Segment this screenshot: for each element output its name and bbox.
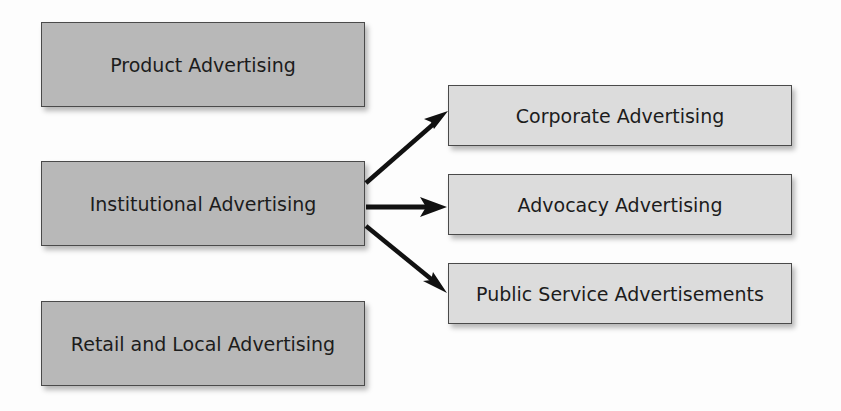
arrow-institutional-to-public-service <box>366 226 447 293</box>
box-label: Product Advertising <box>110 54 296 76</box>
box-label: Corporate Advertising <box>516 105 725 127</box>
arrow-institutional-to-advocacy <box>366 197 447 217</box>
arrowhead-icon <box>423 272 447 293</box>
box-advocacy-advertising: Advocacy Advertising <box>448 174 792 235</box>
box-label: Advocacy Advertising <box>518 194 723 216</box>
box-label: Institutional Advertising <box>90 193 317 215</box>
arrow-institutional-to-corporate <box>366 111 448 183</box>
box-product-advertising: Product Advertising <box>41 22 365 107</box>
box-label: Retail and Local Advertising <box>71 333 335 355</box>
diagram-canvas: Product Advertising Institutional Advert… <box>0 0 841 411</box>
box-public-service-advertisements: Public Service Advertisements <box>448 263 792 324</box>
box-label: Public Service Advertisements <box>476 283 764 305</box>
box-institutional-advertising: Institutional Advertising <box>41 161 365 246</box>
box-corporate-advertising: Corporate Advertising <box>448 85 792 146</box>
arrowhead-icon <box>420 197 447 217</box>
arrowhead-icon <box>424 111 448 129</box>
box-retail-and-local-advertising: Retail and Local Advertising <box>41 301 365 386</box>
